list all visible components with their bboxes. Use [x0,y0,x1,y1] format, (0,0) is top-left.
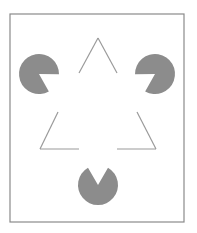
line-lower-right-diagonal [137,112,156,149]
outline-triangle [40,38,156,149]
line-apex-left [79,38,98,73]
line-lower-left-diagonal [40,112,58,149]
kanizsa-figure [0,0,197,233]
pacmen-group [19,54,175,205]
pacman-bottom [78,168,118,205]
pacman-left [19,54,59,94]
line-apex-right [98,38,117,73]
pacman-right [135,54,175,94]
